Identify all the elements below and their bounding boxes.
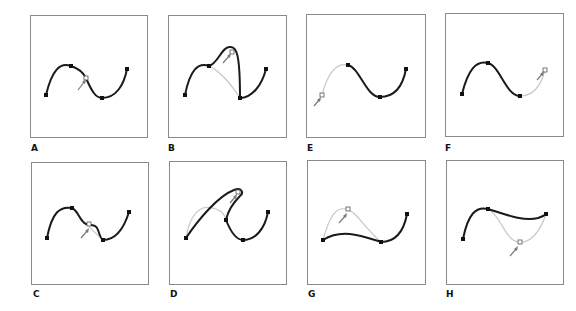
- panel-label-h: H: [446, 289, 454, 299]
- pointer-arrow-icon: [510, 246, 518, 256]
- panel-h-path-drawing: [0, 0, 576, 311]
